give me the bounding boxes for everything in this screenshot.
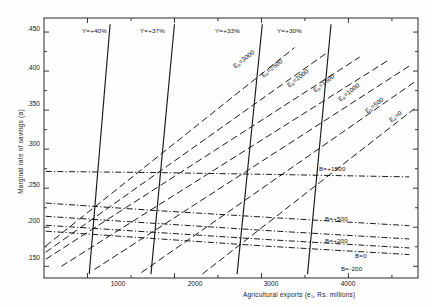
curve-label-y40: Y=+40% [82, 27, 107, 34]
curve-label-y33: Y=+33% [215, 27, 240, 34]
curve-label-b0: B=0 [355, 252, 367, 259]
xtick-label-4000: 4000 [331, 280, 365, 287]
xtick-label-3000: 3000 [254, 280, 288, 287]
y-axis-title: Marginal rate of savings (α) [17, 87, 24, 217]
curve-label-y37: Y=+37% [140, 27, 165, 34]
xtick-label-2000: 2000 [178, 280, 212, 287]
ytick-label-450: .450 [18, 25, 40, 32]
figure-container: .450 .400 .350 .300 .250 .200 .150 1000 … [0, 0, 432, 307]
xtick-label-1000: 1000 [101, 280, 135, 287]
ytick-label-200: .200 [18, 217, 40, 224]
chart-canvas [0, 0, 432, 307]
curve-label-b200: B=+200 [325, 237, 348, 244]
curve-label-b500: B=+500 [325, 215, 348, 222]
curve-label-y30: Y=+30% [277, 27, 302, 34]
ytick-label-400: .400 [18, 64, 40, 71]
curve-label-bm200: B=-200 [341, 265, 362, 272]
ytick-label-150: .150 [18, 254, 40, 261]
x-axis-title: Agricultural exports (e₁, Rs. millions) [243, 291, 355, 298]
curve-label-b1500: B=+1500 [319, 165, 346, 172]
